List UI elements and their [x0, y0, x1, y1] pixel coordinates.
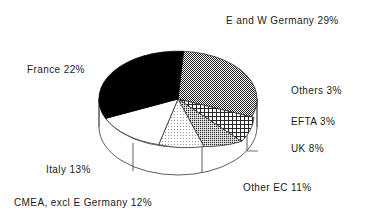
slice-label-uk: UK 8% — [291, 143, 324, 154]
slice-label-france: France 22% — [27, 64, 85, 75]
slice-label-other-ec: Other EC 11% — [243, 182, 312, 193]
slice-label-italy: Italy 13% — [46, 164, 91, 175]
pie-chart-canvas — [0, 0, 380, 224]
slice-label-efta: EFTA 3% — [291, 116, 335, 127]
pie-chart-figure: E and W Germany 29% Others 3% EFTA 3% UK… — [0, 0, 380, 224]
pie-slices — [99, 51, 257, 147]
slice-label-others: Others 3% — [291, 85, 342, 96]
slice-label-cmea-excl-e-germany: CMEA, excl E Germany 12% — [14, 197, 152, 208]
slice-label-e-and-w-germany: E and W Germany 29% — [226, 15, 339, 26]
